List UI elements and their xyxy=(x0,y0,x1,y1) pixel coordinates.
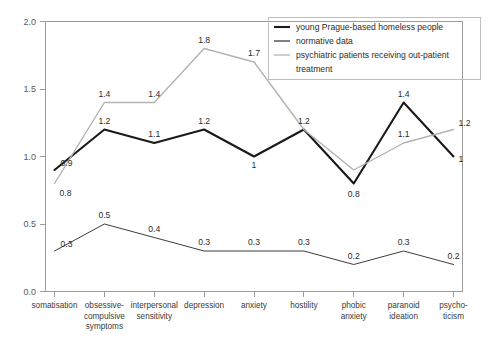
data-label: 1.4 xyxy=(398,89,410,99)
y-axis-ticks: 0.00.51.01.52.0 xyxy=(23,17,45,297)
data-label: 0.8 xyxy=(348,189,360,199)
data-label: 1.1 xyxy=(148,129,160,139)
chart-series xyxy=(55,49,454,265)
y-tick-label: 2.0 xyxy=(23,17,36,27)
y-tick-label: 0.0 xyxy=(23,287,36,297)
x-category-label: psycho- xyxy=(439,301,468,310)
data-label: 0.3 xyxy=(398,237,410,247)
data-label: 1.4 xyxy=(148,89,160,99)
data-label: 0.9 xyxy=(61,158,73,168)
data-label: 1.2 xyxy=(198,116,210,126)
data-label: 1 xyxy=(252,160,257,170)
data-label: 0.5 xyxy=(98,210,110,220)
data-label: 1 xyxy=(459,154,464,164)
data-label: 0.4 xyxy=(148,224,160,234)
y-tick-label: 1.5 xyxy=(23,84,36,94)
data-label: 1.2 xyxy=(98,116,110,126)
data-label: 0.8 xyxy=(60,188,72,198)
x-axis-category-labels: somatisationobsessive-compulsivesymptoms… xyxy=(32,301,469,331)
data-label: 1.1 xyxy=(398,129,410,139)
x-category-label: somatisation xyxy=(32,301,78,310)
x-category-label: phobic xyxy=(342,301,366,310)
x-category-label: obsessive- xyxy=(85,301,124,310)
x-category-label: depression xyxy=(184,301,225,310)
x-category-label: hostility xyxy=(290,301,318,310)
data-label: 0.2 xyxy=(348,251,360,261)
data-labels: 0.91.21.11.211.20.81.410.30.50.40.30.30.… xyxy=(60,35,471,261)
data-label: 1.4 xyxy=(98,89,110,99)
data-label: 0.3 xyxy=(248,237,260,247)
data-label: 0.2 xyxy=(448,251,460,261)
x-category-label: compulsive xyxy=(84,312,125,321)
x-category-label: sensitivity xyxy=(137,312,173,321)
x-category-label: ticism xyxy=(443,312,464,321)
data-label: 0.3 xyxy=(198,237,210,247)
y-tick-label: 0.5 xyxy=(23,219,36,229)
y-tick-label: 1.0 xyxy=(23,152,36,162)
chart-screenshot: 0.00.51.01.52.0 0.91.21.11.211.20.81.410… xyxy=(0,0,488,345)
x-category-label: anxiety xyxy=(241,301,268,310)
data-label: 1.2 xyxy=(459,118,471,128)
chart-legend: young Prague-based homeless peoplenormat… xyxy=(269,18,481,80)
x-axis-ticks xyxy=(55,292,454,297)
data-label: 0.3 xyxy=(298,237,310,247)
x-category-label: anxiety xyxy=(341,312,368,321)
x-category-label: interpersonal xyxy=(131,301,179,310)
data-label: 1.7 xyxy=(248,48,260,58)
line-chart: 0.00.51.01.52.0 0.91.21.11.211.20.81.410… xyxy=(0,0,488,345)
series-line-0 xyxy=(55,103,454,184)
legend-label-2-line2: treatment xyxy=(296,64,333,74)
data-label: 1.2 xyxy=(298,116,310,126)
data-label: 0.3 xyxy=(61,239,73,249)
legend-label-1: normative data xyxy=(296,36,353,46)
x-category-label: paranoid xyxy=(388,301,420,310)
x-category-label: ideation xyxy=(389,312,418,321)
data-label: 1.8 xyxy=(198,35,210,45)
legend-label-0: young Prague-based homeless people xyxy=(296,22,443,32)
legend-label-2: psychiatric patients receiving out-patie… xyxy=(296,50,449,60)
x-category-label: symptoms xyxy=(86,322,123,331)
